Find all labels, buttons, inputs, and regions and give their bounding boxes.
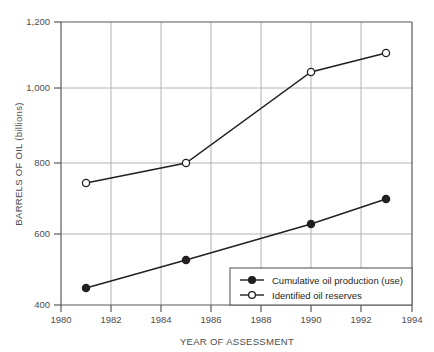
ytick-label-800: 800 (34, 157, 50, 168)
xtick-label-1984: 1984 (150, 314, 171, 325)
reserves-line (86, 53, 386, 183)
xtick-label-1982: 1982 (100, 314, 121, 325)
xtick-label-1988: 1988 (250, 314, 271, 325)
series-identified-oil-reserves (82, 49, 389, 186)
vertical-gridlines (111, 22, 361, 305)
reserves-point-1981 (82, 179, 89, 186)
y-axis-tick-labels: 1,200 1,000 800 600 400 (26, 16, 50, 310)
y-axis-ticks (54, 22, 61, 305)
legend-label-reserves: Identified oil reserves (272, 290, 362, 301)
xtick-label-1992: 1992 (350, 314, 371, 325)
reserves-point-1993 (382, 49, 389, 56)
reserves-point-1990 (307, 68, 314, 75)
chart-legend: Cumulative oil production (use) Identifi… (230, 268, 412, 305)
plot-frame (61, 22, 412, 305)
horizontal-gridlines (61, 88, 412, 234)
xtick-label-1990: 1990 (300, 314, 321, 325)
x-axis-tick-labels: 1980 1982 1984 1986 1988 1990 1992 1994 (50, 314, 422, 325)
filled-circle-icon (249, 277, 256, 284)
xtick-label-1994: 1994 (401, 314, 422, 325)
y-axis-title: BARRELS OF OIL (billions) (13, 102, 24, 225)
ytick-label-600: 600 (34, 228, 50, 239)
xtick-label-1980: 1980 (50, 314, 71, 325)
production-point-1993 (382, 195, 389, 202)
ytick-label-400: 400 (34, 299, 50, 310)
ytick-label-1200: 1,200 (26, 16, 50, 27)
legend-label-production: Cumulative oil production (use) (272, 275, 403, 286)
reserves-point-1985 (182, 159, 189, 166)
production-point-1990 (307, 220, 314, 227)
x-axis-title: YEAR OF ASSESSMENT (180, 336, 294, 347)
ytick-label-1000: 1,000 (26, 82, 50, 93)
line-chart: 1,200 1,000 800 600 400 1980 1982 1984 1… (0, 0, 434, 352)
xtick-label-1986: 1986 (200, 314, 221, 325)
open-circle-icon (249, 292, 256, 299)
production-point-1985 (182, 256, 189, 263)
x-axis-ticks (61, 305, 412, 312)
chart-svg: 1,200 1,000 800 600 400 1980 1982 1984 1… (0, 0, 434, 352)
production-point-1981 (82, 284, 89, 291)
